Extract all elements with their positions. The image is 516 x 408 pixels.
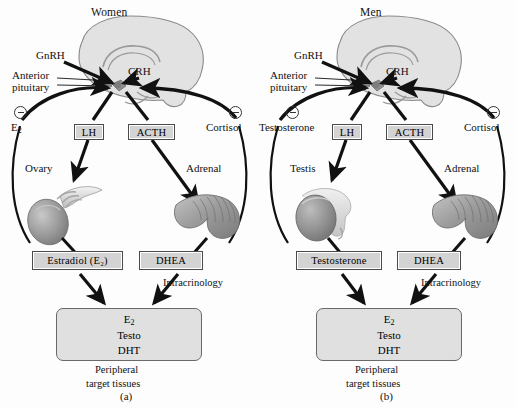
minus-circle-icon-cortisol-women [229, 106, 242, 119]
target-line-1: E2 [384, 312, 395, 328]
box-lh-women[interactable]: LH [74, 124, 104, 140]
minus-circle-icon-cortisol-men [487, 106, 500, 119]
label-pituitary-men: pituitary [270, 82, 307, 94]
box-testosterone[interactable]: Testosterone [296, 251, 382, 270]
adrenal-illustration [174, 195, 239, 239]
box-acth-men[interactable]: ACTH [386, 124, 433, 140]
target-line-2: Testo [117, 328, 141, 343]
panel-title-men: Men [360, 6, 382, 18]
testis-illustration [293, 189, 351, 244]
target-line-2: Testo [377, 328, 401, 343]
arrow-testosterone-to-target [342, 274, 364, 303]
label-gnrh-women: GnRH [36, 50, 65, 62]
label-target-tissues-men: target tissues [346, 378, 400, 389]
label-anterior-women: Anterior [12, 70, 49, 82]
label-cortisol-women: Cortisol [206, 122, 241, 134]
box-lh-men[interactable]: LH [332, 124, 362, 140]
label-testis: Testis [290, 163, 316, 175]
target-tissue-box-women: E2 Testo DHT [56, 308, 202, 361]
target-line-3: DHT [378, 343, 401, 358]
label-target-tissues-women: target tissues [86, 378, 140, 389]
label-ovary: Ovary [25, 163, 53, 175]
label-e2-feedback-women: E2 [11, 122, 22, 135]
target-line-3: DHT [118, 343, 141, 358]
label-adrenal-women: Adrenal [186, 163, 221, 175]
ovary-illustration [22, 187, 102, 250]
figure-canvas: Women GnRH CRH Anterior pituitary E2 Cor… [0, 0, 516, 408]
label-crh-women: CRH [128, 66, 151, 78]
arrow-estradiol-to-target [80, 274, 104, 303]
label-crh-men: CRH [386, 66, 409, 78]
box-acth-women[interactable]: ACTH [128, 124, 175, 140]
label-gnrh-men: GnRH [294, 50, 323, 62]
label-peripheral-men: Peripheral [355, 364, 398, 375]
adrenal-illustration [432, 195, 497, 239]
minus-circle-icon-e2 [14, 106, 27, 119]
label-pituitary-women: pituitary [12, 82, 49, 94]
panel-men: Men GnRH CRH Anterior pituitary Testoste… [258, 0, 516, 408]
panel-women: Women GnRH CRH Anterior pituitary E2 Cor… [0, 0, 258, 408]
minus-circle-icon-testosterone [286, 106, 299, 119]
curve-e2-loop [13, 126, 30, 243]
label-intracrinology-men: Intracrinology [421, 277, 481, 288]
arrow-lh-to-ovary [74, 140, 88, 180]
panel-title-women: Women [91, 6, 127, 18]
target-tissue-box-men: E2 Testo DHT [316, 308, 462, 361]
arrow-lh-to-testis [332, 140, 346, 180]
label-adrenal-men: Adrenal [444, 163, 479, 175]
curve-testosterone-loop [271, 126, 288, 243]
label-intracrinology-women: Intracrinology [163, 277, 223, 288]
arrow-pituitary-to-lh [351, 92, 370, 120]
arrow-pituitary-to-lh [93, 92, 112, 120]
target-line-1: E2 [124, 312, 135, 328]
box-dhea-women[interactable]: DHEA [139, 251, 203, 270]
label-testosterone-feedback: Testosterone [259, 122, 314, 134]
label-peripheral-women: Peripheral [95, 364, 138, 375]
panel-caption-b: (b) [380, 391, 393, 403]
panel-caption-a: (a) [120, 391, 132, 403]
box-estradiol[interactable]: Estradiol (E₂) [32, 251, 123, 270]
label-anterior-men: Anterior [270, 70, 307, 82]
box-dhea-men[interactable]: DHEA [397, 251, 461, 270]
label-cortisol-men: Cortisol [464, 122, 499, 134]
